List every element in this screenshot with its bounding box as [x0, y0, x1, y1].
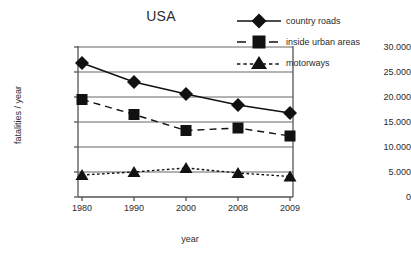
series-inside-urban-areas [77, 94, 296, 142]
legend-label-country-roads: country roads [282, 16, 341, 26]
data-point-marker [231, 98, 245, 112]
chart-container: USA fatalities / year year 30.000 25.000… [0, 0, 411, 261]
data-point-marker [129, 109, 140, 120]
data-point-marker [283, 106, 297, 120]
legend-key-motorways [236, 53, 282, 73]
data-point-marker [75, 56, 89, 70]
legend-label-motorways: motorways [282, 58, 330, 68]
legend-item-motorways[interactable]: motorways [236, 52, 411, 73]
data-point-marker [179, 87, 193, 101]
legend-key-country-roads [236, 11, 282, 31]
legend-label-inside-urban-areas: inside urban areas [282, 37, 360, 47]
data-series [75, 56, 297, 182]
legend-item-country-roads[interactable]: country roads [236, 10, 411, 31]
data-point-marker [77, 94, 88, 105]
data-point-marker [181, 125, 192, 136]
data-point-marker [127, 75, 141, 89]
data-point-marker [233, 123, 244, 134]
legend-key-inside-urban-areas [236, 32, 282, 52]
chart-legend: country roads inside urban areas motorwa… [236, 10, 411, 73]
legend-item-inside-urban-areas[interactable]: inside urban areas [236, 31, 411, 52]
data-point-marker [180, 162, 193, 173]
data-point-marker [285, 131, 296, 142]
